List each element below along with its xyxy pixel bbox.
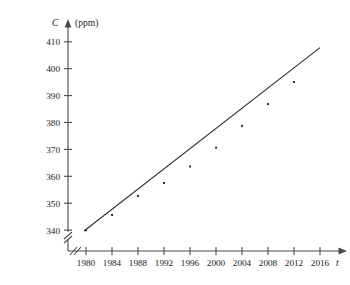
x-tick-label: 2008 — [259, 258, 278, 268]
data-point — [85, 229, 87, 231]
y-axis — [64, 19, 72, 251]
y-tick-labels: 410 400 390 380 370 360 350 340 — [46, 37, 60, 235]
data-point — [163, 182, 165, 184]
y-axis-break-mark-1 — [64, 232, 72, 239]
data-point — [189, 166, 191, 168]
y-tick-label: 370 — [46, 145, 60, 155]
x-tick-label: 2000 — [207, 258, 226, 268]
data-point-series — [85, 81, 295, 231]
x-tick-label: 1980 — [77, 258, 96, 268]
chart-figure: 410 400 390 380 370 360 350 340 C (ppm) — [0, 0, 350, 285]
chart-canvas: 410 400 390 380 370 360 350 340 C (ppm) — [0, 0, 350, 285]
x-axis-variable-label: t — [336, 257, 339, 268]
data-point — [241, 125, 243, 127]
x-tick-label: 2004 — [233, 258, 252, 268]
y-axis-variable-label: C — [52, 17, 59, 28]
data-point — [215, 147, 217, 149]
y-tick-label: 340 — [46, 226, 60, 236]
regression-line — [84, 48, 320, 231]
data-point — [137, 195, 139, 197]
data-point — [267, 103, 269, 105]
x-tick-label: 1984 — [103, 258, 122, 268]
y-tick-label: 400 — [46, 64, 60, 74]
y-tick-label: 390 — [46, 91, 60, 101]
data-point — [111, 214, 113, 216]
x-axis — [68, 247, 347, 255]
y-axis-unit-label: (ppm) — [75, 17, 98, 29]
y-tick-label: 380 — [46, 118, 60, 128]
x-tick-label: 1996 — [181, 258, 200, 268]
x-tick-label: 2012 — [285, 258, 304, 268]
data-point — [293, 81, 295, 83]
y-tick-label: 360 — [46, 172, 60, 182]
y-tick-label: 410 — [46, 37, 60, 47]
x-tick-label: 2016 — [311, 258, 330, 268]
y-axis-arrow — [65, 19, 72, 28]
x-tick-label: 1988 — [129, 258, 148, 268]
x-tick-labels: 1980 1984 1988 1992 1996 2000 2004 2008 … — [77, 258, 330, 268]
y-tick-label: 350 — [46, 199, 60, 209]
x-axis-arrow — [339, 248, 348, 255]
x-tick-label: 1992 — [155, 258, 174, 268]
